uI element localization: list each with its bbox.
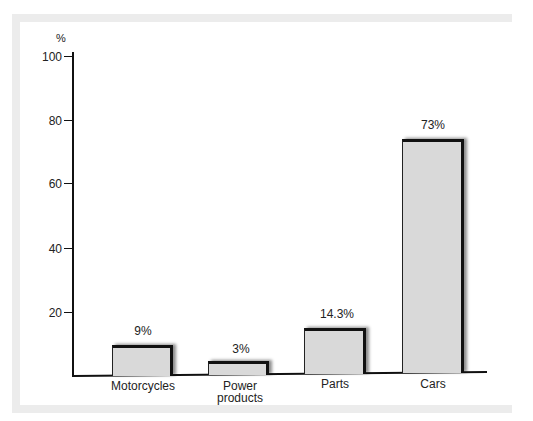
y-tick-label-100: 100: [22, 50, 62, 64]
y-tick-label-20: 20: [22, 306, 62, 320]
y-tick-60: [64, 183, 73, 184]
y-tick-label-60: 60: [22, 177, 62, 191]
category-label-power-products: Power products: [190, 380, 290, 404]
y-tick-label-40: 40: [22, 242, 62, 256]
category-label-line: products: [190, 392, 290, 404]
bar-parts: [304, 328, 366, 374]
y-axis-unit-label: %: [56, 32, 66, 44]
y-tick-100: [64, 56, 73, 57]
bar-value-parts: 14.3%: [302, 307, 372, 321]
bar-value-cars: 73%: [398, 118, 468, 132]
y-tick-20: [64, 312, 73, 313]
bar-value-power-products: 3%: [206, 342, 276, 356]
y-tick-40: [64, 248, 73, 249]
bar-value-motorcycles: 9%: [108, 324, 178, 338]
bar-motorcycles: [112, 345, 173, 376]
category-label-line: Cars: [383, 378, 483, 390]
y-axis-line: [72, 52, 74, 377]
category-label-cars: Cars: [383, 378, 483, 390]
category-label-parts: Parts: [285, 378, 385, 390]
bar-power-products: [208, 361, 269, 375]
category-label-line: Motorcycles: [93, 380, 193, 392]
y-tick-label-80: 80: [22, 114, 62, 128]
category-label-motorcycles: Motorcycles: [93, 380, 193, 392]
category-label-line: Parts: [285, 378, 385, 390]
y-tick-80: [64, 120, 73, 121]
bar-cars: [402, 139, 464, 373]
